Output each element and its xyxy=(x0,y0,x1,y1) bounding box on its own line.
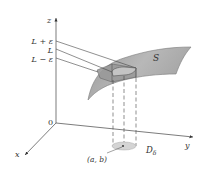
disk-label-main: D xyxy=(145,145,153,155)
point-label: (a, b) xyxy=(87,155,107,164)
level-label-lower: L − ε xyxy=(31,55,53,64)
point-ab xyxy=(122,145,124,147)
disk-label: Dδ xyxy=(145,145,157,156)
y-axis xyxy=(56,123,193,137)
y-axis-label: y xyxy=(184,141,190,150)
z-axis-label: z xyxy=(46,16,52,25)
x-axis xyxy=(25,123,56,155)
origin-label: 0 xyxy=(48,118,53,127)
level-line-lower xyxy=(56,58,98,72)
x-axis-label: x xyxy=(15,150,20,159)
limit-diagram: z y x 0 L + ε L L − ε S (a, b) Dδ xyxy=(0,0,208,178)
surface-label: S xyxy=(153,53,159,63)
level-label-mid: L xyxy=(47,46,53,55)
level-label-upper: L + ε xyxy=(31,37,53,46)
disk-label-sub: δ xyxy=(153,149,157,156)
level-line-upper xyxy=(56,41,136,68)
